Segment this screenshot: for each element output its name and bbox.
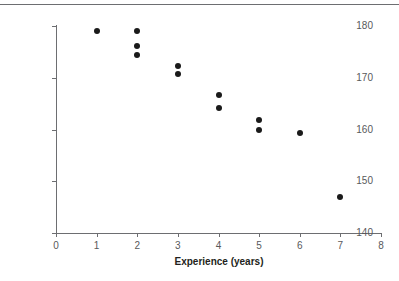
y-axis-tick-label: 160 bbox=[356, 125, 373, 135]
data-point bbox=[134, 43, 140, 49]
x-axis-tick-label: 8 bbox=[378, 241, 384, 251]
data-point bbox=[134, 52, 140, 58]
y-axis-tick bbox=[52, 181, 56, 182]
y-axis-tick-label: 150 bbox=[356, 176, 373, 186]
data-point bbox=[216, 92, 222, 98]
x-axis-tick bbox=[381, 233, 382, 237]
x-axis-tick bbox=[259, 233, 260, 237]
plot-area: 140150160170180012345678 bbox=[56, 26, 381, 233]
y-axis-tick bbox=[52, 78, 56, 79]
x-axis-tick bbox=[219, 233, 220, 237]
data-point bbox=[94, 28, 100, 34]
x-axis-tick-label: 6 bbox=[297, 241, 303, 251]
y-axis-tick-label: 180 bbox=[356, 21, 373, 31]
y-axis-tick bbox=[52, 130, 56, 131]
data-point bbox=[175, 71, 181, 77]
x-axis-tick bbox=[178, 233, 179, 237]
x-axis-tick bbox=[300, 233, 301, 237]
x-axis-tick-label: 4 bbox=[216, 241, 222, 251]
x-axis-tick bbox=[56, 233, 57, 237]
data-point bbox=[216, 105, 222, 111]
y-axis-tick-label: 170 bbox=[356, 73, 373, 83]
data-point bbox=[256, 117, 262, 123]
top-divider bbox=[0, 4, 399, 5]
y-axis-tick-label: 140 bbox=[356, 228, 373, 238]
y-axis-tick bbox=[52, 26, 56, 27]
x-axis-tick-label: 3 bbox=[175, 241, 181, 251]
x-axis-title: Experience (years) bbox=[56, 256, 382, 267]
x-axis-tick-label: 0 bbox=[53, 241, 59, 251]
data-point bbox=[256, 127, 262, 133]
x-axis-tick bbox=[137, 233, 138, 237]
x-axis-tick-label: 7 bbox=[338, 241, 344, 251]
x-axis-tick bbox=[340, 233, 341, 237]
x-axis-tick-label: 1 bbox=[94, 241, 100, 251]
x-axis-tick-label: 5 bbox=[256, 241, 262, 251]
data-point bbox=[175, 63, 181, 69]
data-point bbox=[134, 28, 140, 34]
data-point bbox=[297, 130, 303, 136]
x-axis-tick-label: 2 bbox=[134, 241, 140, 251]
scatter-plot-figure: 140150160170180012345678 Experience (yea… bbox=[0, 0, 399, 281]
data-point bbox=[337, 194, 343, 200]
x-axis-tick bbox=[97, 233, 98, 237]
